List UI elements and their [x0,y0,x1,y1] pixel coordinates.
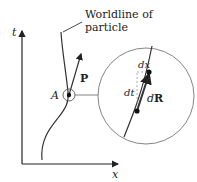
annotation-pointer [63,22,82,32]
annotation-line1: Worldline of [85,8,154,21]
diagram-canvas: t x Worldline of particle P A dx dt dR [0,0,197,182]
axes: t x [12,26,119,181]
point-a [67,93,71,97]
inset-point-top [146,69,151,74]
momentum-label: P [80,72,88,85]
point-a-label: A [50,89,59,102]
t-axis-label: t [12,26,17,39]
x-axis-label: x [112,168,119,181]
inset-point-bottom [134,108,139,113]
annotation-line2: particle [85,21,128,34]
inset: dx dt dR [98,46,194,144]
dt-label: dt [124,87,135,98]
dx-label: dx [138,59,150,70]
worldline-diagram: t x Worldline of particle P A dx dt dR [0,0,197,182]
dR-label: dR [147,92,164,105]
